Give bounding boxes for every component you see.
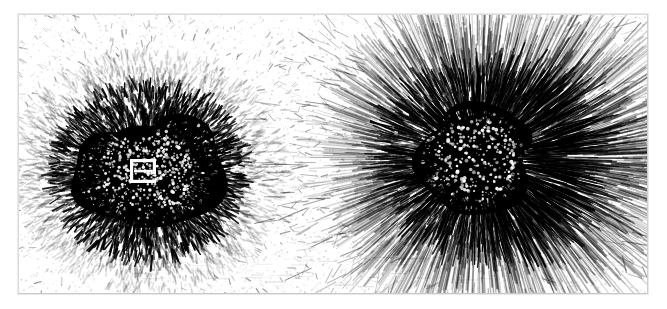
photographic-plate	[18, 14, 648, 294]
iron-filings-layer	[18, 14, 648, 294]
figure-root	[0, 0, 667, 309]
